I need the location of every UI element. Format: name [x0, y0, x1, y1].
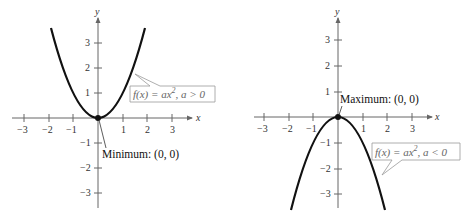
svg-text:1: 1 — [325, 86, 330, 97]
minimum-label: Minimum: (0, 0) — [102, 148, 179, 161]
svg-text:2: 2 — [325, 60, 330, 71]
svg-text:3: 3 — [85, 37, 90, 48]
right-vertex-leader — [339, 106, 342, 115]
svg-text:f(x) = ax2, a > 0: f(x) = ax2, a > 0 — [133, 86, 206, 101]
svg-text:−2: −2 — [320, 163, 331, 174]
svg-text:1: 1 — [121, 124, 126, 135]
svg-text:−1: −1 — [66, 124, 77, 135]
svg-text:2: 2 — [385, 123, 390, 134]
svg-text:−2: −2 — [80, 162, 91, 173]
left-plot: x y −3 −2 −1 1 2 3 3 2 1 −1 −2 −3 Minimu… — [12, 6, 215, 208]
right-x-label: x — [434, 111, 440, 122]
svg-text:−3: −3 — [80, 187, 91, 198]
right-y-label: y — [334, 6, 340, 17]
svg-text:−3: −3 — [320, 188, 331, 199]
left-vertex-leader — [99, 120, 106, 148]
right-vertex-point — [335, 114, 341, 120]
maximum-label: Maximum: (0, 0) — [340, 93, 419, 106]
right-plot: x y −3 −2 −1 1 2 3 3 2 1 −1 −2 −3 Maximu… — [254, 6, 460, 210]
svg-text:2: 2 — [145, 124, 150, 135]
svg-text:3: 3 — [170, 124, 175, 135]
svg-text:3: 3 — [325, 34, 330, 45]
left-y-label: y — [94, 6, 100, 17]
figure: x y −3 −2 −1 1 2 3 3 2 1 −1 −2 −3 Minimu… — [0, 0, 467, 218]
svg-text:1: 1 — [361, 123, 366, 134]
svg-text:f(x) = ax2, a < 0: f(x) = ax2, a < 0 — [375, 144, 448, 159]
svg-text:−2: −2 — [42, 124, 53, 135]
svg-text:2: 2 — [85, 62, 90, 73]
svg-text:3: 3 — [410, 123, 415, 134]
svg-text:−3: −3 — [17, 124, 28, 135]
right-callout: f(x) = ax2, a < 0 — [372, 143, 460, 175]
left-x-label: x — [195, 112, 201, 123]
svg-text:−3: −3 — [257, 123, 268, 134]
svg-text:−2: −2 — [282, 123, 293, 134]
left-vertex-point — [95, 115, 101, 121]
svg-text:1: 1 — [85, 87, 90, 98]
svg-text:−1: −1 — [306, 123, 317, 134]
left-callout: f(x) = ax2, a > 0 — [130, 74, 215, 102]
svg-text:−1: −1 — [80, 137, 91, 148]
svg-text:−1: −1 — [320, 137, 331, 148]
